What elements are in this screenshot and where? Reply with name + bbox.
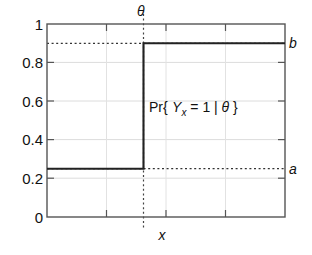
y-tick-label-0.6: 0.6	[22, 94, 43, 109]
formula-middle: = 1 |	[190, 99, 217, 115]
y-tick-label-0.8: 0.8	[22, 55, 43, 70]
formula-subscript: x	[181, 107, 186, 118]
chart-figure: 1 0.8 0.6 0.4 0.2 0 b a θ x Pr{ Yx = 1 |…	[0, 0, 312, 255]
x-axis-label: x	[12, 228, 312, 242]
level-label-b: b	[289, 36, 297, 50]
plot-canvas	[0, 0, 312, 255]
formula-prefix: Pr{	[149, 99, 168, 115]
y-tick-label-1: 1	[35, 17, 43, 32]
y-tick-label-0.2: 0.2	[22, 171, 43, 186]
y-tick-label-0: 0	[35, 210, 43, 225]
formula-suffix: }	[233, 99, 238, 115]
threshold-label-theta: θ	[137, 4, 145, 18]
curve-annotation: Pr{ Yx = 1 | θ }	[149, 100, 238, 118]
y-tick-label-0.4: 0.4	[22, 132, 43, 147]
level-label-a: a	[289, 162, 297, 176]
formula-theta: θ	[222, 99, 230, 115]
